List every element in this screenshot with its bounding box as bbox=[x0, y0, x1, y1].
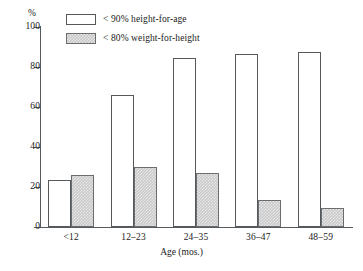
bar-group bbox=[173, 27, 219, 227]
bar-group bbox=[298, 27, 344, 227]
bar-group bbox=[48, 27, 94, 227]
legend-item-label: < 90% height-for-age bbox=[103, 14, 187, 25]
x-axis-category-label: 48–59 bbox=[280, 232, 362, 243]
open-box-swatch-icon bbox=[66, 14, 96, 25]
bar bbox=[71, 175, 94, 227]
y-axis-tick-label: 0 bbox=[14, 222, 40, 232]
bar-group bbox=[235, 27, 281, 227]
y-axis-unit-label: % bbox=[28, 8, 36, 18]
y-axis-tick-label: 60 bbox=[14, 102, 40, 112]
legend-item: < 90% height-for-age bbox=[66, 13, 200, 26]
filled-box-swatch-icon bbox=[66, 33, 96, 44]
legend-item-label: < 80% weight-for-height bbox=[103, 33, 200, 44]
x-axis-title: Age (mos.) bbox=[0, 247, 363, 258]
y-axis-tick-label: 20 bbox=[14, 182, 40, 192]
bar bbox=[258, 200, 281, 227]
bar bbox=[111, 95, 134, 227]
bar bbox=[134, 167, 157, 227]
bar-group bbox=[111, 27, 157, 227]
legend: < 90% height-for-age < 80% weight-for-he… bbox=[66, 13, 200, 51]
y-axis-tick-label: 40 bbox=[14, 142, 40, 152]
y-axis-tick-label: 80 bbox=[14, 62, 40, 72]
bar bbox=[48, 180, 71, 227]
bar bbox=[173, 58, 196, 227]
plot-area bbox=[41, 27, 353, 227]
bar bbox=[196, 173, 219, 227]
bar-chart: % 020406080100 <1212–2324–3536–4748–59 A… bbox=[0, 0, 363, 271]
bar bbox=[298, 52, 321, 227]
y-axis-tick-label: 100 bbox=[14, 22, 40, 32]
legend-item: < 80% weight-for-height bbox=[66, 32, 200, 45]
bar bbox=[321, 208, 344, 227]
x-axis-line bbox=[40, 227, 353, 228]
bar bbox=[235, 54, 258, 227]
